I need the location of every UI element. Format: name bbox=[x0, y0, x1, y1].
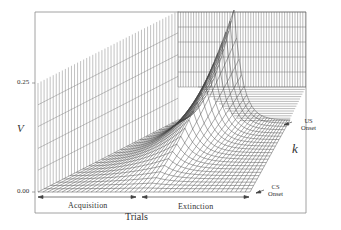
extinction-label: Extinction bbox=[178, 202, 213, 211]
surface-mesh bbox=[38, 10, 290, 192]
z-tick-0-00: 0.00 bbox=[17, 187, 29, 195]
us-onset-label: US Onset bbox=[301, 117, 316, 131]
x-axis-label: Trials bbox=[125, 211, 148, 222]
cs-onset-line2: Onset bbox=[268, 190, 283, 197]
us-onset-line2: Onset bbox=[301, 124, 316, 131]
z-axis-ticks bbox=[32, 83, 35, 192]
depth-axis-label: k bbox=[292, 141, 298, 157]
z-axis-label: V bbox=[17, 122, 24, 134]
acquisition-label: Acquisition bbox=[68, 201, 108, 210]
surface-plot bbox=[0, 0, 341, 230]
us-onset-line1: US bbox=[301, 117, 316, 124]
z-tick-0-25: 0.25 bbox=[17, 78, 29, 86]
cs-onset-label: CS Onset bbox=[268, 183, 283, 197]
cs-onset-line1: CS bbox=[268, 183, 283, 190]
